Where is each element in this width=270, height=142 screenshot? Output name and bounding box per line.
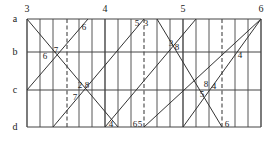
point-label: 5	[138, 119, 143, 129]
point-label: 7	[54, 45, 59, 55]
point-label: 3	[144, 18, 149, 28]
point-label: 2	[78, 80, 83, 90]
point-label: 6	[82, 22, 87, 32]
point-label: 4	[238, 50, 243, 60]
column-label-6: 6	[259, 3, 264, 14]
row-label-a: a	[13, 13, 18, 24]
point-label: 7	[73, 92, 78, 102]
point-label: 8	[85, 80, 90, 90]
diagonal-line	[157, 19, 222, 127]
point-label: 8	[204, 79, 209, 89]
row-label-c: c	[13, 84, 18, 95]
point-label: 6	[225, 119, 230, 129]
diagonal-line	[144, 19, 261, 127]
column-labels: 3456	[25, 3, 264, 14]
column-label-4: 4	[103, 3, 108, 14]
grid-dashed-lines	[67, 19, 222, 127]
column-label-5: 5	[181, 3, 186, 14]
point-label: 4	[212, 81, 217, 91]
point-label: 4	[109, 119, 114, 129]
point-label: 8	[175, 42, 180, 52]
row-labels: abcd	[13, 13, 18, 132]
column-label-3: 3	[25, 3, 30, 14]
row-label-b: b	[13, 46, 18, 57]
row-label-d: d	[13, 121, 18, 132]
point-label: 5	[135, 18, 140, 28]
interval-grid-diagram: abcd 3456 676533842878454656	[0, 0, 270, 142]
point-label: 6	[43, 51, 48, 61]
point-label: 5	[200, 89, 205, 99]
point-label: 3	[169, 38, 174, 48]
